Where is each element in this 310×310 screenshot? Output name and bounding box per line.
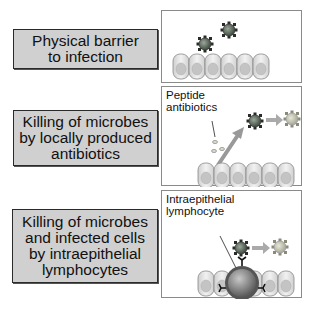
pointer-line <box>212 121 215 137</box>
microbe-icon <box>247 113 264 130</box>
label-physical-barrier: Physical barrier to infection <box>13 29 158 69</box>
microbe-icon <box>233 240 250 257</box>
label-intraepithelial-lymphocytes: Killing of microbes and infected cells b… <box>12 209 158 283</box>
physical-barrier-illustration <box>162 11 303 84</box>
epithelial-cell-layer-icon <box>173 54 269 79</box>
label-text: Physical barrier to infection <box>32 33 139 65</box>
arrow-icon <box>218 127 244 165</box>
arrow-icon <box>266 114 283 126</box>
panel-intraepithelial-lymphocytes: Intraepithelial lymphocyte <box>161 190 302 298</box>
lymphocyte-nucleus <box>228 269 256 297</box>
epithelial-cell-layer-icon <box>198 163 294 187</box>
dead-microbe-icon <box>284 111 301 128</box>
microbe-icon <box>221 22 238 39</box>
label-text: Killing of microbes and infected cells b… <box>22 214 148 278</box>
arrow-icon <box>252 242 270 254</box>
peptide-antibiotic-icon <box>213 140 218 143</box>
local-antibiotics-illustration <box>162 87 303 187</box>
peptide-antibiotic-icon <box>220 147 225 150</box>
panel-local-antibiotics: Peptide antibiotics <box>161 86 302 186</box>
panel-physical-barrier <box>161 10 302 83</box>
peptide-antibiotic-icon <box>212 149 217 152</box>
intraepithelial-lymphocyte-illustration <box>162 191 303 299</box>
dead-microbe-icon <box>272 239 289 256</box>
microbe-icon <box>197 36 214 53</box>
label-local-antibiotics: Killing of microbes by locally produced … <box>13 110 158 166</box>
label-text: Killing of microbes by locally produced … <box>19 114 152 162</box>
